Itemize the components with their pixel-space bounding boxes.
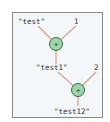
plus-node-1: +	[50, 38, 63, 51]
expression-tree-diagram: + + "test" 1 "test1" 2 "test12"	[0, 0, 110, 122]
label-test: "test"	[18, 17, 45, 26]
label-2: 2	[94, 63, 99, 72]
plus-node-2: +	[72, 84, 85, 97]
plus-icon: +	[76, 87, 80, 95]
plus-icon: +	[54, 41, 58, 49]
label-test12: "test12"	[54, 107, 90, 116]
label-1: 1	[74, 17, 79, 26]
label-test1: "test1"	[36, 63, 68, 72]
